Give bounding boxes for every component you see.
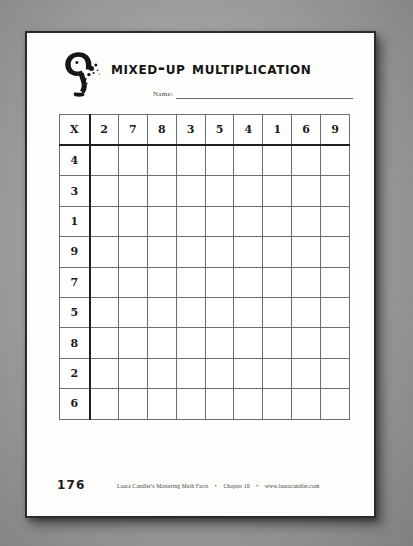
answer-cell-r6-c8[interactable]: [321, 328, 350, 358]
answer-cell-r4-c0[interactable]: [90, 267, 119, 297]
answer-cell-r5-c4[interactable]: [205, 297, 234, 327]
answer-cell-r7-c6[interactable]: [263, 358, 292, 388]
answer-cell-r8-c8[interactable]: [321, 389, 350, 419]
answer-cell-r7-c0[interactable]: [90, 358, 119, 388]
answer-cell-r7-c7[interactable]: [292, 358, 321, 388]
table-header: X 2 7 8 3 5 4 1 6 9: [60, 115, 350, 146]
table-row: 7: [60, 267, 350, 297]
answer-cell-r7-c8[interactable]: [321, 358, 350, 388]
answer-cell-r5-c8[interactable]: [321, 297, 350, 327]
answer-cell-r2-c2[interactable]: [147, 206, 176, 236]
column-header-6: 1: [263, 115, 292, 146]
answer-cell-r6-c2[interactable]: [147, 328, 176, 358]
column-header-3: 3: [176, 115, 205, 146]
answer-cell-r2-c4[interactable]: [205, 206, 234, 236]
answer-cell-r4-c3[interactable]: [176, 267, 205, 297]
answer-cell-r6-c6[interactable]: [263, 328, 292, 358]
answer-cell-r8-c6[interactable]: [263, 389, 292, 419]
answer-cell-r7-c2[interactable]: [147, 358, 176, 388]
answer-cell-r6-c5[interactable]: [234, 328, 263, 358]
answer-cell-r3-c7[interactable]: [292, 237, 321, 267]
answer-cell-r8-c3[interactable]: [176, 389, 205, 419]
answer-cell-r3-c4[interactable]: [205, 237, 234, 267]
footer-credit: Laura Candler's Mastering Math Facts • C…: [117, 483, 319, 489]
answer-cell-r4-c8[interactable]: [321, 267, 350, 297]
answer-cell-r1-c1[interactable]: [118, 176, 147, 206]
answer-cell-r0-c3[interactable]: [176, 145, 205, 176]
answer-cell-r5-c1[interactable]: [118, 297, 147, 327]
answer-cell-r0-c1[interactable]: [118, 145, 147, 176]
answer-cell-r0-c4[interactable]: [205, 145, 234, 176]
answer-cell-r7-c5[interactable]: [234, 358, 263, 388]
answer-cell-r2-c0[interactable]: [90, 206, 119, 236]
answer-cell-r5-c2[interactable]: [147, 297, 176, 327]
answer-cell-r5-c7[interactable]: [292, 297, 321, 327]
row-header-3: 9: [60, 237, 90, 267]
answer-cell-r8-c0[interactable]: [90, 389, 119, 419]
answer-cell-r6-c3[interactable]: [176, 328, 205, 358]
answer-cell-r4-c1[interactable]: [118, 267, 147, 297]
row-header-8: 6: [60, 389, 90, 419]
answer-cell-r6-c1[interactable]: [118, 328, 147, 358]
answer-cell-r0-c8[interactable]: [321, 145, 350, 176]
column-header-4: 5: [205, 115, 234, 146]
answer-cell-r3-c5[interactable]: [234, 237, 263, 267]
answer-cell-r1-c3[interactable]: [176, 176, 205, 206]
answer-cell-r3-c0[interactable]: [90, 237, 119, 267]
numeral-nine-ink-logo-icon: [61, 50, 105, 98]
answer-cell-r8-c7[interactable]: [292, 389, 321, 419]
answer-cell-r1-c6[interactable]: [263, 176, 292, 206]
answer-cell-r1-c8[interactable]: [321, 176, 350, 206]
answer-cell-r8-c5[interactable]: [234, 389, 263, 419]
credit-website[interactable]: www.lauracandler.com: [265, 483, 320, 489]
answer-cell-r1-c5[interactable]: [234, 176, 263, 206]
answer-cell-r7-c3[interactable]: [176, 358, 205, 388]
answer-cell-r4-c5[interactable]: [234, 267, 263, 297]
answer-cell-r1-c7[interactable]: [292, 176, 321, 206]
credit-chapter: Chapter 10: [223, 483, 249, 489]
answer-cell-r3-c6[interactable]: [263, 237, 292, 267]
answer-cell-r0-c2[interactable]: [147, 145, 176, 176]
answer-cell-r3-c1[interactable]: [118, 237, 147, 267]
answer-cell-r3-c3[interactable]: [176, 237, 205, 267]
answer-cell-r6-c4[interactable]: [205, 328, 234, 358]
answer-cell-r2-c7[interactable]: [292, 206, 321, 236]
name-field[interactable]: Name:: [153, 90, 353, 99]
credit-book-title: Laura Candler's Mastering Math Facts: [117, 483, 208, 489]
answer-cell-r4-c6[interactable]: [263, 267, 292, 297]
answer-cell-r6-c7[interactable]: [292, 328, 321, 358]
answer-cell-r0-c0[interactable]: [90, 145, 119, 176]
table-row: 6: [60, 389, 350, 419]
answer-cell-r2-c3[interactable]: [176, 206, 205, 236]
answer-cell-r8-c4[interactable]: [205, 389, 234, 419]
answer-cell-r1-c0[interactable]: [90, 176, 119, 206]
answer-cell-r1-c2[interactable]: [147, 176, 176, 206]
answer-cell-r4-c4[interactable]: [205, 267, 234, 297]
row-header-4: 7: [60, 267, 90, 297]
answer-cell-r3-c8[interactable]: [321, 237, 350, 267]
answer-cell-r3-c2[interactable]: [147, 237, 176, 267]
answer-cell-r6-c0[interactable]: [90, 328, 119, 358]
answer-cell-r4-c7[interactable]: [292, 267, 321, 297]
answer-cell-r8-c1[interactable]: [118, 389, 147, 419]
answer-cell-r5-c0[interactable]: [90, 297, 119, 327]
answer-cell-r2-c5[interactable]: [234, 206, 263, 236]
answer-cell-r5-c5[interactable]: [234, 297, 263, 327]
answer-cell-r0-c5[interactable]: [234, 145, 263, 176]
answer-cell-r7-c4[interactable]: [205, 358, 234, 388]
answer-cell-r2-c1[interactable]: [118, 206, 147, 236]
worksheet-page: Mixed-Up Multiplication Name: X 2 7 8 3 …: [25, 31, 376, 518]
answer-cell-r4-c2[interactable]: [147, 267, 176, 297]
answer-cell-r1-c4[interactable]: [205, 176, 234, 206]
multiplication-grid: X 2 7 8 3 5 4 1 6 9 431975826: [59, 114, 349, 420]
answer-cell-r0-c6[interactable]: [263, 145, 292, 176]
answer-cell-r2-c8[interactable]: [321, 206, 350, 236]
answer-cell-r5-c6[interactable]: [263, 297, 292, 327]
answer-cell-r8-c2[interactable]: [147, 389, 176, 419]
answer-cell-r0-c7[interactable]: [292, 145, 321, 176]
name-field-rule[interactable]: [176, 97, 353, 99]
credit-separator-2: •: [251, 483, 263, 489]
answer-cell-r7-c1[interactable]: [118, 358, 147, 388]
answer-cell-r5-c3[interactable]: [176, 297, 205, 327]
answer-cell-r2-c6[interactable]: [263, 206, 292, 236]
